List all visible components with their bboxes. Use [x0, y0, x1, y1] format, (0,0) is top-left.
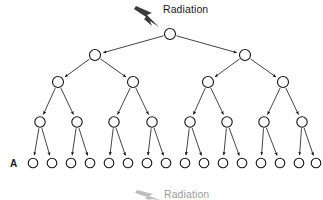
- tree-node: [278, 77, 289, 88]
- tree-edge: [250, 59, 275, 77]
- lightning-bolt-icon: [134, 6, 159, 27]
- tree-node: [35, 117, 45, 127]
- tree-node: [203, 77, 214, 88]
- tree-node: [128, 77, 139, 88]
- lightning-bolt-icon-bottom: [135, 190, 160, 200]
- tree-edge: [154, 128, 163, 155]
- tree-node: [199, 158, 209, 168]
- tree-node: [185, 117, 195, 127]
- tree-edge: [42, 128, 50, 155]
- tree-edge: [72, 128, 76, 155]
- tree-node: [28, 158, 38, 168]
- tree-node: [237, 158, 247, 168]
- tree-node: [104, 158, 114, 168]
- tree-edge: [193, 88, 205, 114]
- tree-node: [72, 117, 82, 127]
- tree-edge: [300, 128, 302, 155]
- tree-node: [259, 117, 269, 127]
- tree-node: [311, 158, 321, 168]
- tree-edge: [103, 36, 163, 53]
- tree-node: [218, 158, 228, 168]
- tree-edge: [262, 128, 264, 155]
- tree-edge: [65, 59, 90, 77]
- tree-node: [142, 158, 152, 168]
- tree-edge: [268, 88, 281, 114]
- top-radiation-label: Radiation: [163, 3, 208, 15]
- tree-edge: [224, 128, 227, 155]
- tree-edge: [79, 128, 88, 155]
- tree-node: [275, 158, 285, 168]
- tree-edge: [61, 88, 74, 114]
- tree-node: [165, 29, 176, 40]
- tree-edge: [176, 36, 236, 53]
- bottom-radiation-annotation: Radiation: [135, 188, 209, 200]
- tree-node: [256, 158, 266, 168]
- tree-edge: [186, 128, 189, 155]
- row-label-a: A: [10, 158, 17, 169]
- tree-node: [222, 117, 232, 127]
- tree-edge: [100, 59, 125, 77]
- tree-node: [90, 50, 101, 61]
- tree-edge: [148, 128, 151, 155]
- tree-edge: [211, 88, 224, 114]
- tree-edge: [43, 88, 55, 114]
- tree-edge: [229, 128, 239, 155]
- tree-node: [147, 117, 157, 127]
- tree-edge: [215, 59, 240, 77]
- tree-node: [161, 158, 171, 168]
- tree-node: [294, 158, 304, 168]
- tree-node: [109, 117, 119, 127]
- tree-node: [123, 158, 133, 168]
- tree-node: [240, 50, 251, 61]
- tree-edge: [110, 128, 113, 155]
- tree-edge: [136, 88, 149, 114]
- tree-edges: [34, 36, 313, 156]
- tree-edge: [118, 88, 131, 114]
- tree-edge: [34, 128, 39, 155]
- tree-edge: [192, 128, 201, 155]
- tree-edge: [266, 128, 277, 156]
- tree-node: [53, 77, 64, 88]
- diagram-canvas: Radiation A Radiation: [0, 0, 323, 200]
- tree-node: [180, 158, 190, 168]
- tree-node: [47, 158, 57, 168]
- tree-edge: [286, 88, 299, 114]
- radiation-tree-svg: Radiation A Radiation: [0, 0, 323, 200]
- tree-node: [66, 158, 76, 168]
- bottom-radiation-label: Radiation: [164, 188, 209, 200]
- tree-edge: [116, 128, 125, 155]
- tree-node: [297, 117, 307, 127]
- tree-nodes: [28, 29, 321, 168]
- tree-edge: [304, 128, 313, 155]
- tree-node: [85, 158, 95, 168]
